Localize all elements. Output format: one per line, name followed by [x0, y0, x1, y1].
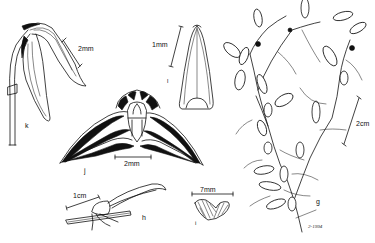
figure-label-k: k [25, 122, 29, 129]
figure-h-drawing [66, 184, 166, 230]
scale-label-i: 7mm [200, 186, 216, 193]
figure-g-drawing [221, 0, 368, 232]
figure-label-i: i [195, 220, 196, 226]
scale-label-k: 2mm [78, 45, 94, 52]
figure-label-h: h [142, 214, 146, 221]
artist-signature: 2-1994 [308, 224, 322, 229]
scale-label-l: 1mm [152, 41, 168, 48]
scale-label-j: 2mm [124, 160, 140, 167]
figure-label-j: j [84, 167, 86, 174]
figure-label-g: g [316, 198, 320, 205]
figure-k-drawing [8, 23, 86, 145]
scale-label-g: 2cm [356, 120, 369, 127]
scale-label-h: 1cm [73, 192, 86, 199]
botanical-plate [0, 0, 375, 243]
figure-l-drawing [169, 25, 213, 109]
figure-label-l: l [167, 78, 168, 84]
figure-i-drawing [192, 192, 233, 220]
figure-j-drawing [60, 90, 203, 165]
